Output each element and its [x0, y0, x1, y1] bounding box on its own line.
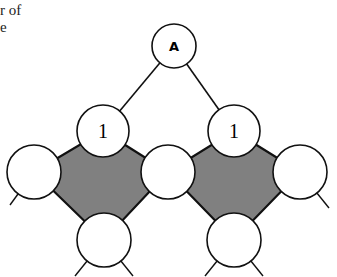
- node-level1-left-label: 1: [98, 120, 108, 142]
- node-middle-center: [141, 145, 195, 199]
- node-bottom-left: [77, 213, 131, 267]
- node-root: A: [152, 24, 196, 68]
- node-middle-right: [273, 145, 327, 199]
- node-middle-left: [7, 145, 61, 199]
- node-level1-right: 1: [208, 105, 260, 157]
- node-level1-right-label: 1: [229, 120, 239, 142]
- tree-diagram: A 1 1: [0, 0, 337, 277]
- node-level1-left: 1: [77, 105, 129, 157]
- node-bottom-right: [207, 213, 261, 267]
- node-root-label: A: [169, 39, 179, 54]
